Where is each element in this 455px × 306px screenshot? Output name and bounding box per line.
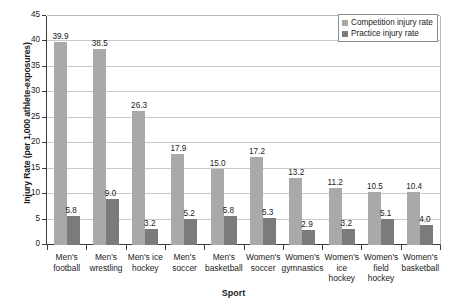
bar-value-label-competition: 10.5 — [367, 182, 383, 191]
y-axis-label-10: 10 — [14, 189, 40, 197]
bar-competition — [289, 178, 302, 245]
bar-practice — [263, 218, 276, 245]
bar-value-label-practice: 3.2 — [341, 219, 352, 228]
y-axis-label-0: 0 — [14, 240, 40, 248]
chart-legend: Competition injury ratePractice injury r… — [338, 14, 438, 42]
bar-value-label-competition: 15.0 — [210, 159, 226, 168]
bar-value-label-practice: 9.0 — [105, 189, 116, 198]
y-axis-label-25: 25 — [14, 113, 40, 121]
y-tick-20 — [42, 142, 46, 143]
bar-value-label-practice: 5.2 — [183, 209, 194, 218]
bar-group: 15.05.8 — [211, 16, 237, 245]
y-axis-label-15: 15 — [14, 164, 40, 172]
bar-group: 26.33.2 — [132, 16, 158, 245]
bar-value-label-competition: 26.3 — [131, 101, 147, 110]
bar-competition — [171, 154, 184, 245]
legend-item: Competition injury rate — [342, 17, 433, 28]
bar-value-label-practice: 4.0 — [419, 215, 430, 224]
y-tick-5 — [42, 219, 46, 220]
bar-practice — [184, 219, 197, 245]
bar-group: 10.44.0 — [407, 16, 433, 245]
bar-value-label-practice: 5.8 — [66, 206, 77, 215]
bar-group: 38.59.0 — [93, 16, 119, 245]
bar-competition — [54, 42, 67, 245]
y-axis-label-30: 30 — [14, 87, 40, 95]
bar-value-label-practice: 3.2 — [144, 219, 155, 228]
y-tick-45 — [42, 15, 46, 16]
bar-practice — [224, 216, 237, 246]
y-tick-35 — [42, 66, 46, 67]
bar-competition — [93, 49, 106, 245]
bar-value-label-competition: 39.9 — [53, 32, 69, 41]
y-tick-25 — [42, 117, 46, 118]
x-tick — [204, 245, 205, 250]
x-tick — [401, 245, 402, 250]
bar-value-label-competition: 17.9 — [170, 144, 186, 153]
bars-layer: 39.95.838.59.026.33.217.95.215.05.817.25… — [47, 16, 440, 245]
bar-value-label-competition: 13.2 — [288, 168, 304, 177]
x-tick — [165, 245, 166, 250]
legend-item-label: Practice injury rate — [351, 29, 419, 38]
bar-value-label-competition: 38.5 — [92, 39, 108, 48]
bar-practice — [302, 230, 315, 245]
bar-competition — [329, 188, 342, 245]
x-tick — [86, 245, 87, 250]
bar-group: 39.95.8 — [54, 16, 80, 245]
bar-group: 10.55.1 — [368, 16, 394, 245]
y-tick-40 — [42, 40, 46, 41]
y-tick-0 — [42, 244, 46, 245]
bar-value-label-competition: 11.2 — [328, 178, 343, 187]
x-tick — [440, 245, 441, 250]
y-axis-label-35: 35 — [14, 62, 40, 70]
bar-practice — [420, 225, 433, 245]
x-tick — [47, 245, 48, 250]
x-axis-title: Sport — [0, 288, 455, 298]
category-label-line: Women's — [398, 252, 443, 263]
bar-value-label-practice: 2.9 — [301, 220, 312, 229]
bar-practice — [67, 216, 80, 246]
bar-group: 17.25.3 — [250, 16, 276, 245]
y-axis-label-20: 20 — [14, 138, 40, 146]
bar-value-label-practice: 5.8 — [223, 206, 234, 215]
y-axis-label-40: 40 — [14, 36, 40, 44]
legend-item-label: Competition injury rate — [351, 18, 433, 27]
category-label-line: basketball — [398, 263, 443, 274]
bar-group: 11.23.2 — [329, 16, 355, 245]
bar-practice — [145, 229, 158, 245]
bar-value-label-practice: 5.1 — [380, 209, 391, 218]
injury-rate-bar-chart: Injury Rate (per 1,000 athlete-exposures… — [0, 0, 455, 306]
x-tick — [361, 245, 362, 250]
x-tick — [126, 245, 127, 250]
legend-swatch-icon — [342, 31, 348, 37]
y-tick-10 — [42, 193, 46, 194]
y-tick-30 — [42, 91, 46, 92]
y-axis-label-5: 5 — [14, 215, 40, 223]
legend-swatch-icon — [342, 20, 348, 26]
legend-item: Practice injury rate — [342, 28, 433, 39]
y-tick-15 — [42, 168, 46, 169]
x-axis-category-label: Women'sbasketball — [398, 252, 443, 273]
bar-practice — [106, 199, 119, 245]
category-label-line: hockey — [358, 273, 403, 284]
bar-practice — [381, 219, 394, 245]
bar-value-label-practice: 5.3 — [262, 208, 273, 217]
x-tick — [322, 245, 323, 250]
bar-competition — [250, 157, 263, 245]
bar-value-label-competition: 10.4 — [406, 182, 422, 191]
y-axis-label-45: 45 — [14, 11, 40, 19]
bar-group: 17.95.2 — [171, 16, 197, 245]
bar-competition — [368, 192, 381, 245]
x-tick — [244, 245, 245, 250]
x-tick — [283, 245, 284, 250]
bar-practice — [342, 229, 355, 245]
bar-group: 13.22.9 — [289, 16, 315, 245]
bar-value-label-competition: 17.2 — [249, 147, 265, 156]
